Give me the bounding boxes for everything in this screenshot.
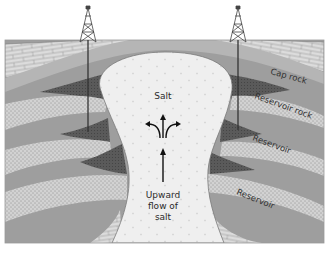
salt-label: Salt [154,91,172,101]
right-derrick-icon [230,6,246,42]
upward-flow-label-1: Upward [146,190,180,200]
upward-flow-label-2: flow of [148,201,179,211]
salt-dome-diagram: Salt Upward flow of salt Cap rock Reserv… [0,0,330,255]
left-derrick-icon [80,6,96,42]
upward-flow-label-3: salt [155,212,172,222]
